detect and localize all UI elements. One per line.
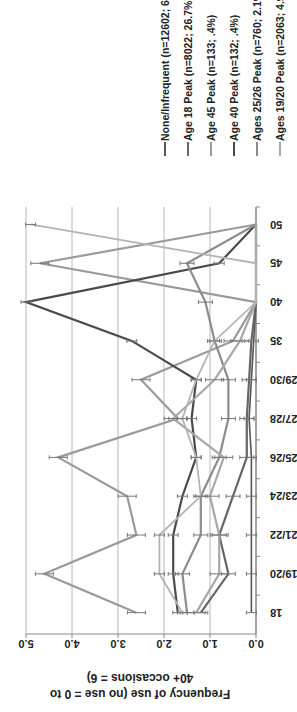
legend-label: Ages 19/20 Peak (n=2063; 4.9%) bbox=[274, 0, 286, 141]
x-tick-label: 40 bbox=[270, 296, 282, 308]
x-tick-label: 45 bbox=[270, 257, 282, 269]
line-chart: 0.01.02.03.04.05.01819/2021/2223/2425/26… bbox=[0, 0, 297, 712]
x-tick-label: 29/30 bbox=[270, 374, 297, 386]
y-tick-label: 5.0 bbox=[18, 638, 33, 650]
legend-item: Age 18 Peak (n=8022; 26.7%) bbox=[182, 0, 194, 156]
x-tick-label: 50 bbox=[270, 219, 282, 231]
y-axis-title: Frequency of use (no use = 0 to 40+ occa… bbox=[50, 671, 230, 701]
legend: None/Infrequent (n=12602; 65.1%)Age 18 P… bbox=[159, 0, 297, 156]
x-tick-label: 19/20 bbox=[270, 568, 297, 580]
svg-text:Frequency of use (no use = 0 t: Frequency of use (no use = 0 to bbox=[50, 687, 230, 701]
x-tick-label: 35 bbox=[270, 335, 282, 347]
x-tick-label: 18 bbox=[270, 607, 282, 619]
legend-item: Age 40 Peak (n=132; .4%) bbox=[228, 15, 240, 156]
legend-item: Ages 25/26 Peak (n=760; 2.1%) bbox=[251, 0, 263, 156]
y-tick-label: 4.0 bbox=[64, 638, 79, 650]
x-tick-label: 27/28 bbox=[270, 413, 297, 425]
y-tick-label: 0.0 bbox=[248, 638, 263, 650]
rotated-chart: 0.01.02.03.04.05.01819/2021/2223/2425/26… bbox=[0, 0, 297, 712]
legend-label: Ages 25/26 Peak (n=760; 2.1%) bbox=[251, 0, 263, 141]
series-lines bbox=[21, 222, 258, 614]
legend-item: None/Infrequent (n=12602; 65.1%) bbox=[159, 0, 171, 156]
y-tick-label: 3.0 bbox=[110, 638, 125, 650]
x-tick-label: 23/24 bbox=[269, 490, 297, 502]
legend-label: Age 40 Peak (n=132; .4%) bbox=[228, 15, 240, 141]
legend-label: Age 18 Peak (n=8022; 26.7%) bbox=[182, 0, 194, 141]
legend-label: Age 45 Peak (n=133; .4%) bbox=[205, 15, 217, 141]
x-tick-label: 21/22 bbox=[270, 529, 297, 541]
legend-item: Ages 19/20 Peak (n=2063; 4.9%) bbox=[274, 0, 286, 156]
legend-label: None/Infrequent (n=12602; 65.1%) bbox=[159, 0, 171, 141]
svg-text:40+ occasions = 6): 40+ occasions = 6) bbox=[87, 671, 194, 685]
y-tick-label: 1.0 bbox=[202, 638, 217, 650]
series-line bbox=[31, 224, 256, 614]
x-tick-label: 25/26 bbox=[270, 452, 297, 464]
y-tick-label: 2.0 bbox=[156, 638, 171, 650]
legend-item: Age 45 Peak (n=133; .4%) bbox=[205, 15, 217, 156]
series-line bbox=[21, 224, 256, 614]
